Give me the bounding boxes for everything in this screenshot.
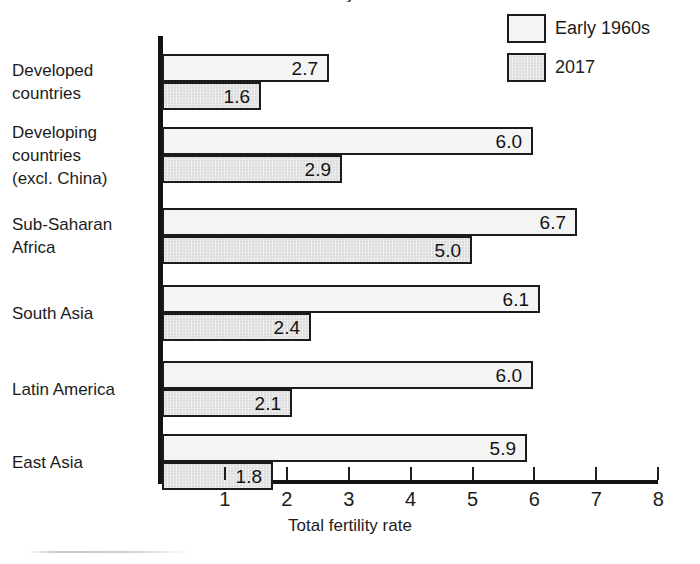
x-tick-2 <box>286 467 288 480</box>
category-label-line: Developed <box>12 59 158 82</box>
bar-2017[interactable]: 5.0 <box>162 236 472 264</box>
bar-value-label: 2.4 <box>274 318 309 337</box>
x-tick-label-7: 7 <box>576 488 616 511</box>
bar-early-1960s[interactable]: 5.9 <box>162 434 527 462</box>
bar-2017[interactable]: 2.9 <box>162 155 342 183</box>
x-tick-3 <box>348 467 350 480</box>
x-tick-label-1: 1 <box>205 488 245 511</box>
footer-divider <box>26 551 191 553</box>
category-label-line: countries <box>12 144 158 167</box>
bar-2017[interactable]: 2.1 <box>162 389 292 417</box>
x-tick-1 <box>224 467 226 480</box>
bar-value-label: 6.1 <box>503 290 538 309</box>
bar-2017[interactable]: 2.4 <box>162 313 311 341</box>
bar-2017[interactable]: 1.6 <box>162 82 261 110</box>
bar-value-label: 6.0 <box>496 366 531 385</box>
bar-value-label: 5.9 <box>490 439 525 458</box>
x-tick-6 <box>533 467 535 480</box>
bar-value-label: 2.9 <box>305 160 340 179</box>
bar-early-1960s[interactable]: 6.0 <box>162 127 533 155</box>
category-label-1: Developingcountries(excl. China) <box>12 121 158 190</box>
bar-early-1960s[interactable]: 2.7 <box>162 54 329 82</box>
category-label-5: East Asia <box>12 451 158 474</box>
plot-area: 2.71.66.02.96.75.06.12.46.02.15.91.8 123… <box>162 36 657 476</box>
bar-early-1960s[interactable]: 6.7 <box>162 208 577 236</box>
x-tick-5 <box>472 467 474 480</box>
category-label-4: Latin America <box>12 378 158 401</box>
clipped-title-fragment: y <box>0 0 700 2</box>
x-axis-title: Total fertility rate <box>0 516 700 536</box>
x-tick-8 <box>657 467 659 480</box>
x-tick-7 <box>595 467 597 480</box>
bar-value-label: 6.0 <box>496 132 531 151</box>
bar-value-label: 1.8 <box>236 467 271 486</box>
bar-early-1960s[interactable]: 6.0 <box>162 361 533 389</box>
category-label-line: countries <box>12 82 158 105</box>
category-label-line: South Asia <box>12 302 158 325</box>
bar-value-label: 2.1 <box>255 394 290 413</box>
category-label-line: Developing <box>12 121 158 144</box>
category-label-2: Sub-SaharanAfrica <box>12 213 158 259</box>
category-label-line: (excl. China) <box>12 167 158 190</box>
x-tick-label-3: 3 <box>329 488 369 511</box>
category-label-0: Developedcountries <box>12 59 158 105</box>
x-tick-4 <box>410 467 412 480</box>
category-label-line: Africa <box>12 236 158 259</box>
chart-figure: y Early 1960s 2017 DevelopedcountriesDev… <box>0 0 700 564</box>
category-label-line: East Asia <box>12 451 158 474</box>
bar-value-label: 2.7 <box>292 59 327 78</box>
bar-value-label: 5.0 <box>435 241 470 260</box>
category-label-line: Sub-Saharan <box>12 213 158 236</box>
bar-2017[interactable]: 1.8 <box>162 462 273 490</box>
bar-value-label: 1.6 <box>224 87 259 106</box>
x-tick-label-8: 8 <box>638 488 678 511</box>
x-tick-label-6: 6 <box>514 488 554 511</box>
category-label-3: South Asia <box>12 302 158 325</box>
x-tick-label-5: 5 <box>453 488 493 511</box>
bar-value-label: 6.7 <box>540 213 575 232</box>
x-tick-label-4: 4 <box>391 488 431 511</box>
x-tick-label-2: 2 <box>267 488 307 511</box>
category-label-line: Latin America <box>12 378 158 401</box>
bar-early-1960s[interactable]: 6.1 <box>162 285 540 313</box>
